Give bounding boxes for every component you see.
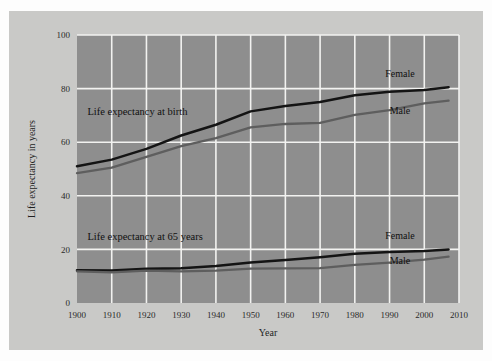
y-tick-label: 80 xyxy=(61,84,71,94)
y-axis-tick-labels: 020406080100 xyxy=(57,30,71,308)
x-tick-label: 1940 xyxy=(207,310,226,320)
figure-card: FemaleMaleFemaleMale Life expectancy at … xyxy=(9,11,483,350)
y-axis-title: Life expectancy in years xyxy=(26,120,37,218)
x-tick-label: 1920 xyxy=(137,310,156,320)
series-label-female: Female xyxy=(385,68,415,79)
y-tick-label: 20 xyxy=(61,245,71,255)
series-label-male: Male xyxy=(390,105,411,116)
x-tick-label: 1910 xyxy=(103,310,122,320)
y-tick-label: 60 xyxy=(61,137,71,147)
screenshot-root: FemaleMaleFemaleMale Life expectancy at … xyxy=(0,0,492,361)
chart-canvas: FemaleMaleFemaleMale Life expectancy at … xyxy=(9,11,483,350)
x-tick-label: 1970 xyxy=(311,310,330,320)
y-tick-label: 100 xyxy=(57,30,71,40)
x-tick-label: 1960 xyxy=(276,310,295,320)
x-tick-label: 1900 xyxy=(68,310,87,320)
x-axis-tick-labels: 1900191019201930194019501960197019801990… xyxy=(68,310,469,320)
life-expectancy-chart: FemaleMaleFemaleMale Life expectancy at … xyxy=(9,11,483,350)
y-tick-label: 0 xyxy=(66,298,71,308)
annotation-2: Life expectancy at 65 years xyxy=(87,231,202,242)
x-axis-title: Year xyxy=(259,327,278,338)
annotation-1: Life expectancy at birth xyxy=(87,106,188,117)
x-tick-label: 1930 xyxy=(172,310,191,320)
x-tick-label: 1980 xyxy=(346,310,365,320)
x-tick-label: 1950 xyxy=(242,310,261,320)
x-tick-label: 2010 xyxy=(450,310,469,320)
x-tick-label: 2000 xyxy=(415,310,434,320)
x-tick-label: 1990 xyxy=(381,310,400,320)
series-label-male: Male xyxy=(390,255,411,266)
series-label-female: Female xyxy=(385,230,415,241)
y-tick-label: 40 xyxy=(61,191,71,201)
